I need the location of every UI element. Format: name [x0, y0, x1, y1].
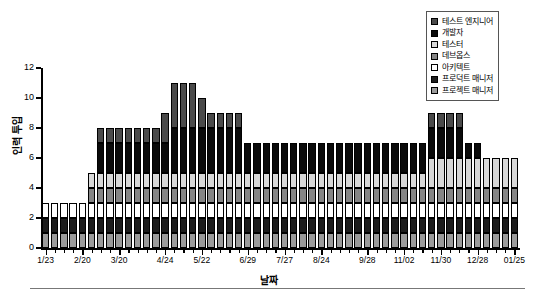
bar-segment	[419, 218, 426, 233]
bar-segment	[134, 233, 141, 248]
bar-segment	[189, 173, 196, 188]
x-tick-label: 11/30	[431, 255, 452, 265]
bar-segment	[79, 233, 86, 248]
bar-segment	[189, 218, 196, 233]
bar-segment	[226, 128, 233, 173]
x-tick	[358, 249, 359, 253]
bar	[134, 68, 141, 248]
x-tick	[128, 249, 129, 253]
bar-segment	[125, 143, 132, 173]
bar-segment	[410, 233, 417, 248]
bar-segment	[465, 188, 472, 203]
bar-segment	[456, 158, 463, 188]
bar-segment	[373, 203, 380, 218]
bar-segment	[474, 188, 481, 203]
bar-segment	[272, 203, 279, 218]
legend-item[interactable]: 테스트 엔지니어	[431, 16, 493, 28]
bar-segment	[180, 83, 187, 128]
x-tick	[220, 249, 221, 253]
bar-segment	[299, 203, 306, 218]
legend-item[interactable]: 테스터	[431, 39, 493, 51]
bar-segment	[171, 188, 178, 203]
legend-swatch-icon	[431, 87, 438, 94]
legend-item[interactable]: 데브옵스	[431, 51, 493, 63]
bar-segment	[125, 173, 132, 188]
bar-segment	[115, 143, 122, 173]
bar-segment	[428, 218, 435, 233]
legend-item[interactable]: 프로덕트 매니저	[431, 74, 493, 86]
bar-segment	[391, 188, 398, 203]
x-tick	[174, 249, 175, 253]
bar-segment	[207, 113, 214, 128]
bar-segment	[373, 233, 380, 248]
bar-segment	[474, 233, 481, 248]
bar	[308, 68, 315, 248]
bar-segment	[345, 173, 352, 188]
bar-segment	[327, 173, 334, 188]
bar	[189, 68, 196, 248]
bar-segment	[152, 143, 159, 173]
bar-segment	[428, 188, 435, 203]
bar-segment	[134, 143, 141, 173]
bar-segment	[437, 158, 444, 188]
bar	[69, 68, 76, 248]
bar-segment	[88, 173, 95, 188]
bar-segment	[198, 188, 205, 203]
x-tick-label: 6/29	[240, 255, 257, 265]
bar-segment	[492, 188, 499, 203]
bar-segment	[115, 233, 122, 248]
legend-item[interactable]: 아키텍트	[431, 62, 493, 74]
bar-segment	[207, 188, 214, 203]
bar-segment	[281, 188, 288, 203]
legend-label: 테스트 엔지니어	[442, 18, 493, 26]
legend-item[interactable]: 프로젝트 매니저	[431, 85, 493, 97]
bar-segment	[364, 188, 371, 203]
bar-segment	[299, 173, 306, 188]
bar-segment	[189, 203, 196, 218]
legend-label: 개발자	[442, 29, 463, 37]
x-tick	[211, 249, 212, 253]
x-tick	[386, 249, 387, 253]
bar-segment	[161, 233, 168, 248]
bar-segment	[456, 203, 463, 218]
bar-segment	[60, 218, 67, 233]
bar-segment	[217, 188, 224, 203]
bar-segment	[115, 173, 122, 188]
bar-segment	[115, 188, 122, 203]
bar-segment	[502, 203, 509, 218]
bar	[180, 68, 187, 248]
bar-segment	[428, 233, 435, 248]
bar-segment	[502, 218, 509, 233]
bar-segment	[134, 173, 141, 188]
bar-segment	[354, 203, 361, 218]
bar	[171, 68, 178, 248]
bar-segment	[474, 158, 481, 188]
legend-label: 프로덕트 매니저	[442, 75, 493, 83]
bar-segment	[437, 188, 444, 203]
bar-segment	[180, 128, 187, 173]
x-tick	[73, 249, 74, 253]
bar-segment	[198, 98, 205, 128]
bar-segment	[263, 188, 270, 203]
bar-segment	[161, 203, 168, 218]
bar-segment	[281, 218, 288, 233]
bar-segment	[318, 173, 325, 188]
x-tick	[312, 249, 313, 253]
y-tick-label: 0	[14, 243, 34, 252]
bar-segment	[419, 143, 426, 173]
bar	[244, 68, 251, 248]
bar-segment	[88, 218, 95, 233]
bar-segment	[428, 158, 435, 188]
legend-swatch-icon	[431, 18, 438, 25]
bar-segment	[373, 143, 380, 173]
bar-segment	[446, 218, 453, 233]
legend-item[interactable]: 개발자	[431, 28, 493, 40]
x-tick	[138, 249, 139, 253]
bar-segment	[143, 233, 150, 248]
bar	[115, 68, 122, 248]
bar-segment	[400, 218, 407, 233]
legend-swatch-icon	[431, 76, 438, 83]
bar-segment	[419, 233, 426, 248]
bar-segment	[446, 233, 453, 248]
bar	[354, 68, 361, 248]
